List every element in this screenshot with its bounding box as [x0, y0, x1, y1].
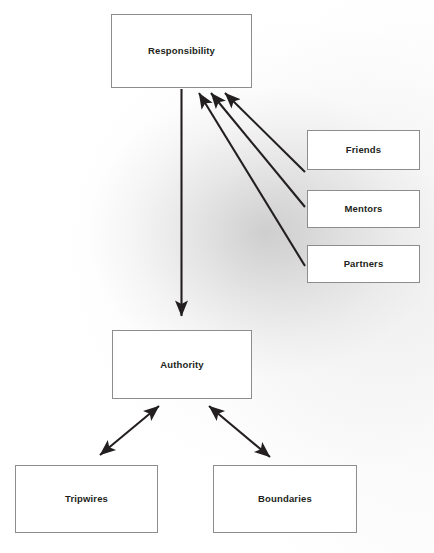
- arrow-friends-to-responsibility: [225, 93, 305, 172]
- node-label-authority: Authority: [160, 360, 204, 370]
- arrow-authority-boundaries: [209, 406, 270, 457]
- node-label-boundaries: Boundaries: [258, 494, 312, 504]
- node-label-partners: Partners: [344, 259, 384, 269]
- node-label-mentors: Mentors: [345, 204, 383, 214]
- node-boundaries: Boundaries: [213, 465, 357, 533]
- node-mentors: Mentors: [307, 190, 420, 228]
- arrow-authority-tripwires: [100, 406, 159, 455]
- node-responsibility: Responsibility: [111, 14, 252, 88]
- node-friends: Friends: [307, 130, 420, 170]
- node-label-responsibility: Responsibility: [148, 46, 215, 56]
- node-authority: Authority: [112, 330, 252, 399]
- node-label-tripwires: Tripwires: [65, 494, 108, 504]
- node-label-friends: Friends: [346, 145, 381, 155]
- node-partners: Partners: [307, 245, 420, 283]
- diagram-canvas: Responsibility Authority Friends Mentors…: [0, 0, 434, 553]
- node-tripwires: Tripwires: [15, 465, 158, 533]
